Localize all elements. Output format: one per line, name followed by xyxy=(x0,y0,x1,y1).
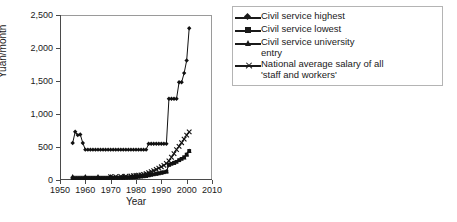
legend-symbol-square-icon xyxy=(235,25,261,36)
y-axis-tick-label: 2,500 xyxy=(3,11,53,20)
legend-item[interactable]: National average salary of all'staff and… xyxy=(235,59,439,80)
data-point-diamond xyxy=(184,58,188,62)
data-point-diamond xyxy=(70,141,74,145)
data-point-diamond xyxy=(187,26,191,30)
legend-symbol-cross-icon xyxy=(235,60,261,71)
data-point-diamond xyxy=(81,141,85,145)
series-cross xyxy=(108,130,191,179)
legend-label: Civil service universityentry xyxy=(261,37,354,58)
x-axis-tick-label: 2000 xyxy=(177,186,197,195)
legend-symbol-diamond-icon xyxy=(235,12,261,23)
data-point-diamond xyxy=(182,71,186,75)
legend-label: National average salary of all'staff and… xyxy=(261,59,384,80)
data-point-diamond xyxy=(164,142,168,146)
y-axis-tick-label: 500 xyxy=(3,143,53,152)
y-axis-tick-label: 0 xyxy=(3,176,53,185)
legend-label: Civil service highest xyxy=(261,11,345,22)
y-axis-tick-label: 1,500 xyxy=(3,77,53,86)
data-point-diamond xyxy=(174,97,178,101)
data-point-cross xyxy=(187,130,192,135)
data-point-diamond xyxy=(144,147,148,151)
x-axis-title: Year xyxy=(60,196,212,207)
legend-item[interactable]: Civil service lowest xyxy=(235,24,439,36)
series-canvas xyxy=(60,15,212,180)
square-icon xyxy=(245,27,251,33)
legend-label-line1: Civil service lowest xyxy=(261,23,341,34)
cross-icon xyxy=(245,62,252,69)
data-point-diamond xyxy=(179,80,183,84)
legend-label-line1: Civil service highest xyxy=(261,10,345,21)
plot-area xyxy=(60,15,212,180)
y-axis-tick-label: 2,000 xyxy=(3,44,53,53)
x-axis-tick-label: 1990 xyxy=(151,186,171,195)
x-axis-tick-label: 2010 xyxy=(202,186,222,195)
y-axis-tick-label: 1,000 xyxy=(3,110,53,119)
legend-symbol-triangle-icon xyxy=(235,38,261,49)
series-line xyxy=(73,28,190,149)
x-axis-tick-label: 1970 xyxy=(101,186,121,195)
legend-item[interactable]: Civil service highest xyxy=(235,11,439,23)
x-axis-tick-label: 1950 xyxy=(50,186,70,195)
diamond-icon xyxy=(244,13,251,20)
series-diamond xyxy=(70,26,191,152)
legend-label: Civil service lowest xyxy=(261,24,341,35)
legend-label-line2: 'staff and workers' xyxy=(261,70,384,81)
chart-figure: Yuan/month 05001,0001,5002,0002,500 1950… xyxy=(0,0,457,222)
chart-legend: Civil service highestCivil service lowes… xyxy=(232,6,443,86)
legend-label-line2: entry xyxy=(261,48,354,59)
triangle-icon xyxy=(245,40,251,46)
legend-label-line1: Civil service university xyxy=(261,36,354,47)
legend-item[interactable]: Civil service universityentry xyxy=(235,37,439,58)
legend-label-line1: National average salary of all xyxy=(261,58,384,69)
x-axis-tick-label: 1980 xyxy=(126,186,146,195)
x-axis-tick-label: 1960 xyxy=(75,186,95,195)
series-line xyxy=(73,151,190,176)
